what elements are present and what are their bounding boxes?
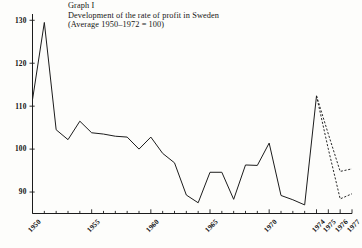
- series-line-2: [317, 96, 353, 199]
- y-axis-tick-label: 120: [5, 59, 27, 68]
- series-layer: [33, 22, 353, 204]
- y-axis-tick-label: 100: [5, 144, 27, 153]
- series-line-1: [317, 96, 353, 172]
- y-axis-tick-label: 90: [5, 187, 27, 196]
- axis-layer: [33, 14, 353, 214]
- tick-layer: [30, 20, 353, 213]
- y-axis-tick-label: 130: [5, 16, 27, 25]
- series-line-0: [33, 22, 317, 204]
- y-axis-tick-label: 110: [5, 102, 27, 111]
